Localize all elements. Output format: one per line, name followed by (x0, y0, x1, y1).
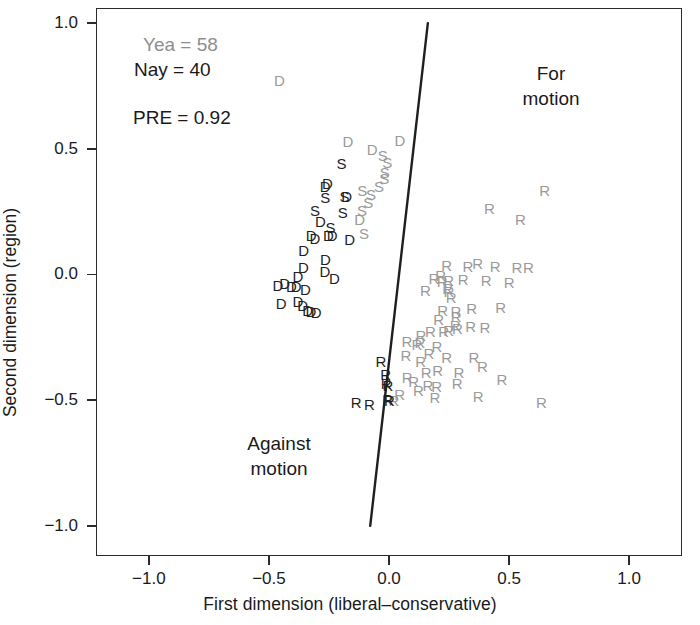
data-point-d: D (276, 295, 287, 310)
data-point-s: S (359, 226, 369, 241)
pre-statistic-annotation: PRE = 0.92 (133, 106, 231, 130)
x-axis-title: First dimension (liberal–conservative) (0, 594, 700, 615)
data-point-d: D (341, 189, 352, 204)
data-point-r: R (413, 383, 424, 398)
data-point-d: D (274, 72, 285, 87)
data-point-r: R (472, 255, 483, 270)
data-point-r: R (536, 394, 547, 409)
data-point-r: R (466, 301, 477, 316)
data-point-d: D (272, 277, 283, 292)
nay-count-annotation: Nay = 40 (134, 58, 211, 82)
data-point-r: R (515, 212, 526, 227)
data-point-r: R (477, 359, 488, 374)
yea-count-annotation: Yea = 58 (143, 33, 218, 57)
y-axis-title: Second dimension (region) (0, 0, 30, 625)
data-point-r: R (479, 319, 490, 334)
data-point-r: R (465, 318, 476, 333)
data-point-d: D (329, 271, 340, 286)
data-point-r: R (495, 300, 506, 315)
data-point-r: R (384, 393, 395, 408)
data-point-r: R (400, 348, 411, 363)
data-point-d: D (394, 132, 405, 147)
data-point-d: D (311, 305, 322, 320)
data-point-r: R (484, 201, 495, 216)
data-point-r: R (443, 322, 454, 337)
data-point-d: D (342, 133, 353, 148)
data-point-r: R (432, 362, 443, 377)
data-point-d: D (310, 230, 321, 245)
data-point-s: S (326, 219, 336, 234)
data-point-r: R (351, 394, 362, 409)
data-point-r: R (458, 272, 469, 287)
data-point-r: R (473, 388, 484, 403)
data-point-d: D (367, 141, 378, 156)
data-point-r: R (481, 272, 492, 287)
scatter-chart: −1.0−0.50.00.51.01.00.50.0−0.5−1.0 DDDSS… (0, 0, 700, 625)
data-point-r: R (539, 183, 550, 198)
data-point-r: R (429, 390, 440, 405)
data-point-d: D (344, 231, 355, 246)
data-point-r: R (452, 375, 463, 390)
data-point-s: S (320, 190, 330, 205)
data-point-s: S (336, 155, 346, 170)
data-point-r: R (496, 372, 507, 387)
data-point-r: R (504, 274, 515, 289)
data-point-r: R (523, 260, 534, 275)
cutting-line (370, 23, 428, 526)
data-point-d: D (298, 242, 309, 257)
data-point-r: R (364, 396, 375, 411)
data-point-r: R (420, 283, 431, 298)
region-label-for-motion: For motion (476, 62, 626, 111)
data-point-s: S (338, 205, 348, 220)
region-label-against-motion: Against motion (194, 432, 364, 481)
